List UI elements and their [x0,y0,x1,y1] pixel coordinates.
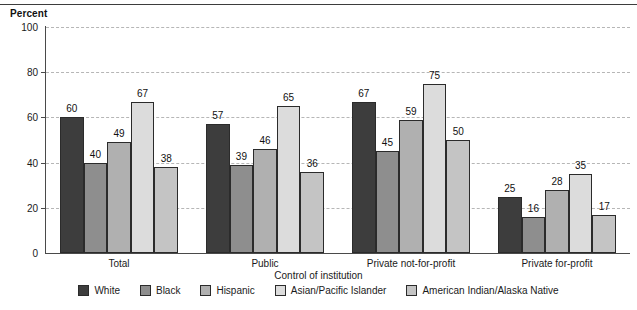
legend-label: American Indian/Alaska Native [422,285,558,296]
bar [253,149,277,253]
top-divider [0,4,637,5]
bar-value-label: 38 [154,153,178,164]
y-tick-mark [41,72,46,73]
y-tick-label: 20 [0,202,38,213]
bar-value-label: 50 [446,126,470,137]
bar-value-label: 46 [253,135,277,146]
bar-value-label: 67 [131,88,155,99]
bar-chart: Percent 020406080100 6040496738573946653… [0,0,637,310]
bar [230,165,254,253]
gridline [46,72,630,73]
bar-value-label: 57 [206,110,230,121]
x-axis-line [45,253,630,254]
bar-value-label: 17 [592,201,616,212]
bar-value-label: 60 [60,103,84,114]
bar [522,217,546,253]
bar-value-label: 28 [545,176,569,187]
legend-swatch-icon [200,285,211,296]
legend-swatch-icon [140,285,151,296]
legend-swatch-icon [275,285,286,296]
bar-value-label: 59 [399,106,423,117]
bar-value-label: 67 [352,88,376,99]
bar [84,163,108,253]
y-tick-label: 100 [0,22,38,33]
bar [154,167,178,253]
legend-item: Asian/Pacific Islander [275,285,387,296]
y-tick-label: 80 [0,67,38,78]
x-axis-title: Control of institution [0,270,637,281]
y-axis-line [45,26,46,254]
bar-value-label: 49 [107,128,131,139]
bar [446,140,470,253]
bar [352,102,376,253]
legend-label: Asian/Pacific Islander [291,285,387,296]
legend-item: Hispanic [200,285,254,296]
bar [569,174,593,253]
x-group-label: Public [192,258,338,269]
legend-item: American Indian/Alaska Native [406,285,558,296]
bar [107,142,131,253]
bar [399,120,423,253]
y-tick-mark [41,117,46,118]
bar-value-label: 75 [423,70,447,81]
legend-label: Hispanic [216,285,254,296]
bar-value-label: 25 [498,183,522,194]
bar [498,197,522,254]
x-group-label: Private for-profit [484,258,630,269]
bar [423,84,447,254]
bar [60,117,84,253]
legend-swatch-icon [406,285,417,296]
y-tick-label: 60 [0,112,38,123]
y-tick-label: 40 [0,157,38,168]
x-group-label: Total [46,258,192,269]
y-tick-label: 0 [0,248,38,259]
legend-label: White [94,285,120,296]
bar [545,190,569,253]
bar-value-label: 36 [300,158,324,169]
legend-swatch-icon [78,285,89,296]
y-tick-mark [41,163,46,164]
gridline [46,27,630,28]
bar [131,102,155,253]
bar [376,151,400,253]
legend: WhiteBlackHispanicAsian/Pacific Islander… [0,285,637,296]
y-tick-mark [41,208,46,209]
bar-value-label: 35 [569,160,593,171]
y-axis-title: Percent [10,8,47,19]
bar-value-label: 39 [230,151,254,162]
legend-item: Black [140,285,180,296]
bar [592,215,616,253]
x-group-label: Private not-for-profit [338,258,484,269]
legend-item: White [78,285,120,296]
legend-label: Black [156,285,180,296]
bar [206,124,230,253]
bar-value-label: 16 [522,203,546,214]
bar-value-label: 65 [277,92,301,103]
bar-value-label: 45 [376,137,400,148]
bar [277,106,301,253]
bar-value-label: 40 [84,149,108,160]
bar [300,172,324,253]
